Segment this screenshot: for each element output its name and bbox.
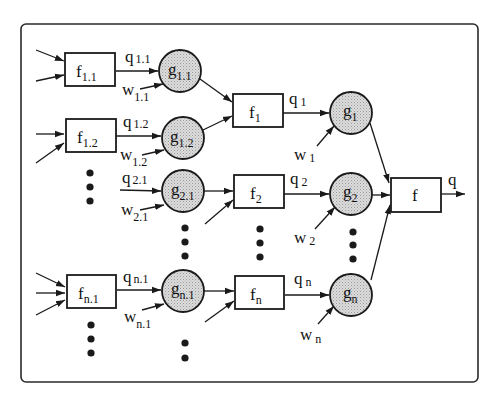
- ellipsis-dot: [256, 239, 263, 246]
- ellipsis-dot: [349, 255, 356, 262]
- ellipsis-dot: [86, 183, 93, 190]
- ellipsis-dot: [87, 321, 94, 328]
- ellipsis-dot: [181, 238, 188, 245]
- ellipsis-dot: [86, 169, 93, 176]
- ellipsis-dot: [349, 228, 356, 235]
- ellipsis-dot: [86, 197, 93, 204]
- label-f-output: f: [412, 186, 418, 205]
- label-output-q: q: [448, 170, 457, 189]
- ellipsis-dot: [256, 253, 263, 260]
- ellipsis-dot: [181, 354, 188, 361]
- ellipsis-dot: [87, 349, 94, 356]
- ellipsis-dot: [181, 252, 188, 259]
- ellipsis-dot: [87, 335, 94, 342]
- ellipsis-dot: [349, 241, 356, 248]
- network-diagram: f1.1 f1.2 fn.1 f1 f2 fn f g1.1 g1.2 g2.1…: [0, 0, 498, 406]
- ellipsis-dot: [256, 225, 263, 232]
- ellipsis-dot: [181, 224, 188, 231]
- ellipsis-dot: [181, 339, 188, 346]
